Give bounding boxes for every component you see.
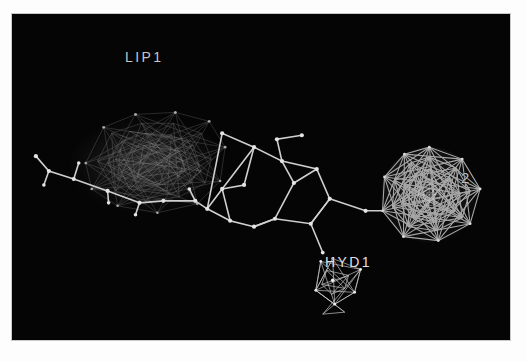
acceptor2-inner-detail bbox=[418, 184, 440, 206]
screenshot-root: LIP1 HYD1 2 bbox=[0, 0, 527, 362]
hyd1-feature[interactable] bbox=[314, 257, 362, 314]
molecule-viewport[interactable]: LIP1 HYD1 2 bbox=[11, 13, 511, 341]
hyd1-wireframe-cone bbox=[316, 259, 361, 315]
molecular-scene[interactable] bbox=[12, 14, 510, 340]
lip1-feature[interactable] bbox=[70, 111, 227, 214]
acceptor2-feature[interactable] bbox=[381, 146, 481, 243]
